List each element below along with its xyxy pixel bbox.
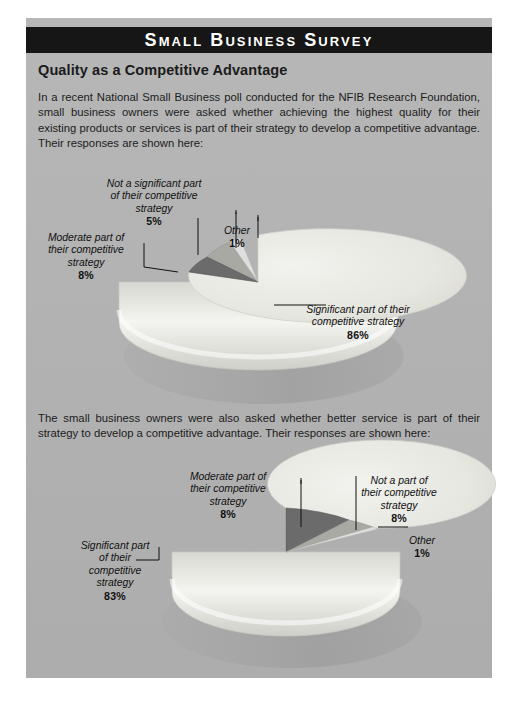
callout-text: Significant part of their competitive st… (81, 540, 150, 589)
banner-title: Small Business Survey (26, 30, 492, 50)
callout-text: Other (409, 535, 435, 546)
callout-percent: 8% (26, 269, 146, 282)
callout-text: Not a part of their competitive strategy (361, 475, 437, 511)
intro-paragraph-service: The small business owners were also aske… (38, 411, 480, 442)
page-root: Small Business Survey Quality as a Compe… (0, 0, 516, 712)
callout-significant-quality: Significant part of their competitive st… (272, 291, 444, 354)
callout-text: Moderate part of their competitive strat… (48, 232, 124, 268)
callout-moderate-quality: Moderate part of their competitive strat… (26, 219, 146, 295)
callout-other-quality: Other 1% (206, 212, 268, 262)
callout-other-service: Other 1% (384, 522, 460, 572)
callout-moderate-service: Moderate part of their competitive strat… (166, 458, 290, 534)
callout-text: Moderate part of their competitive strat… (190, 471, 266, 507)
callout-percent: 1% (384, 547, 460, 560)
callout-text: Not a significant part of their competit… (107, 178, 202, 214)
page-title: Quality as a Competitive Advantage (38, 62, 287, 78)
callout-text: Other (224, 225, 250, 236)
callout-significant-service: Significant part of their competitive st… (54, 527, 176, 615)
callout-percent: 86% (272, 329, 444, 342)
intro-paragraph-quality: In a recent National Small Business poll… (38, 90, 480, 152)
callout-percent: 8% (166, 508, 290, 521)
callout-text: Significant part of their competitive st… (306, 304, 409, 328)
callout-percent: 1% (206, 237, 268, 250)
callout-percent: 83% (54, 590, 176, 603)
survey-banner: Small Business Survey (26, 27, 492, 53)
